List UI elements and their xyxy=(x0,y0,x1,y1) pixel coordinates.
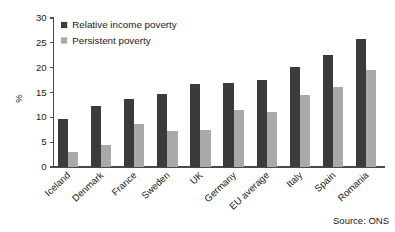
bar-persistent-poverty xyxy=(267,112,277,167)
y-axis-title: % xyxy=(13,94,24,103)
legend-swatch xyxy=(61,37,67,43)
bar-relative-income-poverty xyxy=(356,39,366,167)
bar-relative-income-poverty xyxy=(323,55,333,167)
bar-persistent-poverty xyxy=(167,131,177,167)
legend-swatch xyxy=(61,22,67,28)
bar-relative-income-poverty xyxy=(290,67,300,167)
source-note: Source: ONS xyxy=(333,215,389,226)
y-axis-tick-label: 5 xyxy=(41,136,46,147)
bar-persistent-poverty xyxy=(200,130,210,167)
bar-relative-income-poverty xyxy=(257,80,267,167)
y-axis-tick-label: 15 xyxy=(36,87,47,98)
legend-label: Persistent poverty xyxy=(72,35,151,46)
bar-relative-income-poverty xyxy=(157,94,167,167)
y-axis-tick-label: 20 xyxy=(36,62,47,73)
bar-relative-income-poverty xyxy=(58,119,68,167)
bar-persistent-poverty xyxy=(300,95,310,167)
grouped-bar-chart: 051015202530% IcelandDenmarkFranceSweden… xyxy=(0,0,395,232)
y-axis-tick-label: 30 xyxy=(36,12,47,23)
bar-persistent-poverty xyxy=(68,152,78,167)
y-axis-tick-label: 25 xyxy=(36,37,47,48)
bar-relative-income-poverty xyxy=(223,83,233,167)
legend-label: Relative income poverty xyxy=(72,19,177,30)
bar-persistent-poverty xyxy=(333,87,343,167)
bar-relative-income-poverty xyxy=(124,99,134,167)
bar-persistent-poverty xyxy=(366,70,376,167)
chart-figure: 051015202530% IcelandDenmarkFranceSweden… xyxy=(0,0,395,232)
bar-persistent-poverty xyxy=(101,145,111,167)
bar-persistent-poverty xyxy=(234,110,244,167)
y-axis-tick-label: 0 xyxy=(41,161,46,172)
bar-persistent-poverty xyxy=(134,124,144,167)
bar-relative-income-poverty xyxy=(190,84,200,167)
bar-relative-income-poverty xyxy=(91,106,101,167)
y-axis-tick-label: 10 xyxy=(36,111,47,122)
